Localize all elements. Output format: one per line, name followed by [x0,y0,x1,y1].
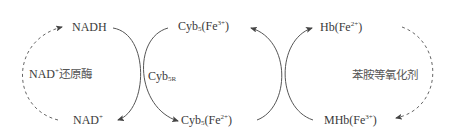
mhb-text: MHb(Fe [324,113,365,127]
fe-charge: 2+ [351,20,358,28]
fe-charge: 3+ [218,19,225,27]
node-hb-fe2: Hb(Fe2+) [320,20,362,34]
close-paren: ) [373,113,377,127]
close-paren: ) [225,19,229,33]
fe-charge: 2+ [221,113,228,121]
fe-charge: 3+ [365,113,372,121]
nadh-text: NADH [72,20,107,34]
node-nad-plus: NAD+ [73,113,103,127]
nad-text: NAD [73,113,99,127]
reductase-text: 还原酶 [59,67,92,81]
close-paren: ) [358,20,362,34]
arrow-nadh-to-nad [113,28,141,120]
cyb-text: Cyb [178,19,198,33]
arrow-cyb5-fe2-to-fe3 [251,28,282,120]
label-cyb5r: Cyb5R [148,69,176,83]
fe-text: (Fe [202,19,218,33]
cyb-text: Cyb [181,113,201,127]
cyb-text: Cyb [148,69,168,83]
fe-text: (Fe [205,113,221,127]
hb-text: Hb(Fe [320,20,351,34]
arrow-mhb-to-hb [285,28,313,120]
label-nad-reductase: NAD+还原酶 [29,67,92,81]
node-nadh: NADH [72,20,107,34]
close-paren: ) [228,113,232,127]
redox-cycle-diagram: NADH NAD+ Cyb5(Fe3+) Cyb5(Fe2+) Hb(Fe2+)… [0,0,453,133]
nad-charge: + [99,113,103,121]
node-cyb5-fe2: Cyb5(Fe2+) [181,113,232,127]
cyb-subscript: 5R [168,75,176,83]
node-mhb-fe3: MHb(Fe3+) [324,113,377,127]
nad-text: NAD [29,67,55,81]
label-oxidant: 苯胺等氧化剂 [352,68,418,82]
node-cyb5-fe3: Cyb5(Fe3+) [178,19,229,33]
